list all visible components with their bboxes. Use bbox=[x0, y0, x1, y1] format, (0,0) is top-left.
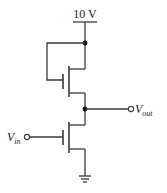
inverter-circuit: 10 V Vout Vin bbox=[0, 0, 167, 193]
load-gate-tie-wire bbox=[47, 43, 85, 80]
output-label: Vout bbox=[135, 102, 153, 118]
input-label: Vin bbox=[7, 130, 21, 146]
load-mosfet-icon bbox=[63, 66, 85, 97]
ground-icon bbox=[79, 176, 91, 182]
driver-mosfet-icon bbox=[63, 122, 85, 153]
input-terminal bbox=[24, 134, 29, 139]
supply-label: 10 V bbox=[73, 7, 97, 21]
output-terminal bbox=[128, 106, 133, 111]
